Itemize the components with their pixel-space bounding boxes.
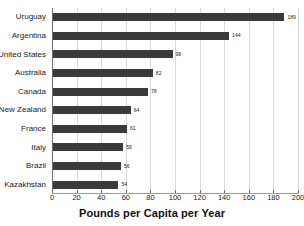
bar-value-label: 61 (130, 126, 136, 131)
x-tick-label: 140 (218, 194, 231, 202)
category-label: Uruguay (16, 13, 46, 21)
bar-value-label: 78 (151, 89, 157, 94)
x-tick-label: 60 (122, 194, 130, 202)
bar (52, 69, 153, 77)
bar (52, 50, 173, 58)
bar-value-label: 64 (134, 108, 140, 113)
x-tick-label: 0 (50, 194, 54, 202)
x-tick-mark (52, 190, 53, 193)
category-axis-labels: UruguayArgentinaUnited StatesAustraliaCa… (0, 8, 50, 194)
x-tick-label: 80 (146, 194, 154, 202)
x-tick-mark (126, 190, 127, 193)
x-axis-ticks: 020406080100120140160180200 (52, 194, 298, 208)
bar-value-label: 98 (176, 52, 182, 57)
bar-row: 56 (52, 157, 298, 176)
category-label: Italy (31, 144, 46, 152)
bar (52, 32, 229, 40)
x-tick-label: 200 (292, 194, 304, 202)
bar-row: 82 (52, 64, 298, 83)
bar-value-label: 189 (287, 15, 295, 20)
bar-value-label: 144 (232, 33, 240, 38)
x-tick-label: 100 (169, 194, 182, 202)
bar-row: 64 (52, 101, 298, 120)
x-tick-label: 40 (97, 194, 105, 202)
category-label: New Zealand (0, 106, 46, 114)
bar-row: 78 (52, 82, 298, 101)
bar-row: 189 (52, 8, 298, 27)
bar (52, 181, 118, 189)
x-tick-mark (249, 190, 250, 193)
bar (52, 13, 284, 21)
category-label: France (21, 125, 46, 133)
bar-row: 98 (52, 45, 298, 64)
bar-row: 144 (52, 27, 298, 46)
x-tick-mark (77, 190, 78, 193)
x-tick-label: 20 (72, 194, 80, 202)
bar-value-label: 54 (121, 182, 127, 187)
x-tick-label: 180 (267, 194, 280, 202)
category-label: United States (0, 51, 46, 59)
bar-chart: UruguayArgentinaUnited StatesAustraliaCa… (0, 0, 304, 226)
bar (52, 125, 127, 133)
category-label: Brazil (26, 162, 46, 170)
x-tick-mark (150, 190, 151, 193)
x-tick-mark (298, 190, 299, 193)
category-label: Argentina (12, 32, 46, 40)
x-tick-mark (101, 190, 102, 193)
x-tick-mark (224, 190, 225, 193)
bar-value-label: 82 (156, 71, 162, 76)
x-tick-mark (273, 190, 274, 193)
category-label: Canada (18, 88, 46, 96)
category-label: Australia (15, 69, 46, 77)
bar-row: 61 (52, 120, 298, 139)
gridline (298, 8, 299, 194)
plot-area: 1891449882786461585654 (52, 8, 298, 194)
bar-value-label: 56 (124, 164, 130, 169)
y-axis-line (52, 8, 53, 194)
bar-series: 1891449882786461585654 (52, 8, 298, 194)
bar (52, 143, 123, 151)
x-tick-label: 160 (243, 194, 256, 202)
x-tick-mark (200, 190, 201, 193)
x-tick-label: 120 (193, 194, 206, 202)
x-tick-mark (175, 190, 176, 193)
bar (52, 106, 131, 114)
bar (52, 162, 121, 170)
bar (52, 88, 148, 96)
bar-row: 58 (52, 138, 298, 157)
x-axis-title: Pounds per Capita per Year (0, 207, 304, 219)
bar-value-label: 58 (126, 145, 132, 150)
category-label: Kazakhstan (4, 181, 46, 189)
